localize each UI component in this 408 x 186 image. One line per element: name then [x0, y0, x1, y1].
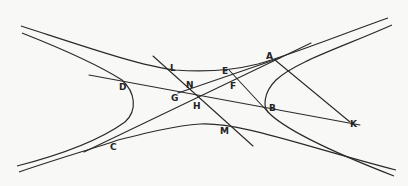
point-label-B: B	[269, 103, 276, 113]
point-label-K: K	[350, 119, 358, 129]
line-EF	[229, 70, 268, 112]
right-branch	[265, 25, 394, 176]
left-branch	[17, 80, 133, 166]
line-LM	[153, 56, 253, 146]
point-label-E: E	[222, 66, 228, 76]
point-label-D: D	[119, 82, 126, 92]
point-label-H: H	[193, 101, 201, 111]
hyperbola-diagram: A B C D E F G H K L M N	[0, 0, 408, 186]
upper-curve-left	[21, 18, 388, 71]
left-branch-upper-line	[22, 33, 122, 80]
diagram-canvas: A B C D E F G H K L M N	[0, 0, 408, 186]
point-label-F: F	[230, 81, 236, 91]
point-label-M: M	[220, 126, 229, 136]
point-label-N: N	[186, 80, 194, 90]
point-label-L: L	[170, 63, 176, 73]
point-label-A: A	[266, 51, 273, 61]
point-label-C: C	[110, 142, 117, 152]
line-AK	[275, 60, 350, 122]
point-label-G: G	[171, 93, 178, 103]
